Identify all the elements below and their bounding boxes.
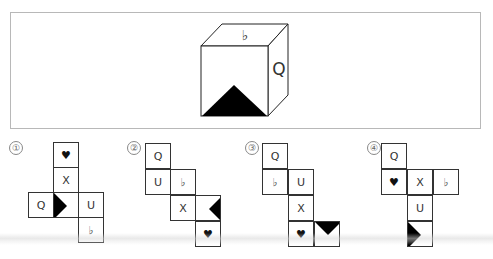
net-cell: Q (145, 143, 171, 169)
net-cell: ♥ (53, 142, 79, 168)
heart-icon: ♥ (61, 150, 71, 161)
flat-symbol: ♭ (272, 177, 277, 188)
net-cell: X (288, 195, 314, 221)
net-cell: Q (381, 143, 407, 169)
cell-letter: X (179, 203, 187, 214)
net-cell: ♥ (288, 221, 314, 247)
net-cell: U (407, 195, 433, 221)
net-cell (195, 195, 221, 221)
cell-letter: X (297, 203, 305, 214)
cell-letter: Q (271, 151, 280, 162)
net-cell: X (170, 195, 196, 221)
cell-letter: X (416, 177, 424, 188)
cube-right-symbol: Q (272, 59, 285, 79)
cell-letter: Q (154, 151, 163, 162)
net-cell: U (145, 169, 171, 195)
net-cell (314, 221, 340, 247)
triangle-down-icon (315, 222, 340, 247)
net-cell: X (407, 169, 433, 195)
net-cell: U (288, 169, 314, 195)
cube-top-symbol: ♭ (242, 27, 249, 43)
cell-letter: Q (390, 151, 399, 162)
cell-letter: U (87, 200, 95, 211)
net-cell: ♭ (262, 169, 288, 195)
cell-letter: U (416, 203, 424, 214)
net-cell: ♭ (433, 169, 459, 195)
net-cell: ♥ (195, 221, 221, 247)
flat-symbol: ♭ (88, 225, 93, 236)
option-label-1[interactable]: ① (9, 141, 23, 155)
net-cell: U (78, 192, 104, 218)
net-cell: X (53, 167, 79, 193)
cell-letter: U (154, 177, 162, 188)
cell-letter: U (297, 177, 305, 188)
cell-letter: Q (37, 200, 46, 211)
flat-symbol: ♭ (443, 177, 448, 188)
triangle-right-icon (54, 193, 79, 218)
cube-figure: ♭ Q (0, 0, 493, 130)
flat-symbol: ♭ (180, 177, 185, 188)
net-cell (407, 221, 433, 247)
triangle-right-icon (408, 222, 433, 247)
heart-icon: ♥ (296, 229, 306, 240)
triangle-left-icon (196, 196, 221, 221)
option-label-3[interactable]: ③ (245, 141, 259, 155)
cell-letter: X (62, 175, 70, 186)
option-label-4[interactable]: ④ (367, 141, 381, 155)
net-cell: ♥ (381, 169, 407, 195)
heart-icon: ♥ (203, 229, 213, 240)
net-cell: ♭ (170, 169, 196, 195)
net-cell: Q (28, 192, 54, 218)
net-cell: ♭ (78, 217, 104, 243)
option-label-2[interactable]: ② (127, 141, 141, 155)
heart-icon: ♥ (389, 177, 399, 188)
net-cell: Q (262, 143, 288, 169)
net-cell (53, 192, 79, 218)
